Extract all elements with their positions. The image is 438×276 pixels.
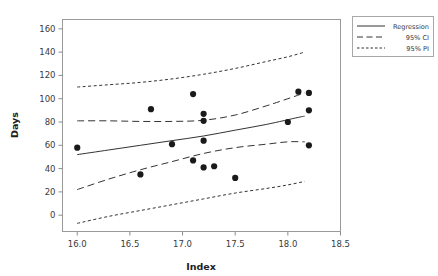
data-point [190, 91, 196, 97]
x-tick-label: 17.5 [226, 239, 245, 249]
y-tick-label: 20 [45, 187, 56, 197]
data-point [137, 171, 143, 177]
data-point [201, 118, 207, 124]
chart-legend[interactable]: Regression95% CI95% PI [353, 17, 434, 57]
y-tick-label: 120 [39, 70, 55, 80]
y-tick-label: 40 [45, 164, 56, 174]
y-axis-title: Days [9, 112, 20, 138]
y-tick-label: 100 [39, 94, 55, 104]
x-tick-label: 16.0 [68, 239, 87, 249]
y-tick-label: 0 [50, 210, 55, 220]
x-tick-label: 18.0 [278, 239, 297, 249]
y-tick-label: 160 [39, 24, 55, 34]
y-tick-label: 80 [45, 117, 56, 127]
data-point [169, 141, 175, 147]
data-point [190, 157, 196, 163]
data-point [306, 90, 312, 96]
legend-label[interactable]: 95% PI [406, 45, 429, 53]
data-point [201, 164, 207, 170]
x-tick-label: 18.5 [331, 239, 350, 249]
data-point [74, 145, 80, 151]
legend-label[interactable]: Regression [393, 23, 429, 31]
data-point [201, 138, 207, 144]
data-point [148, 106, 154, 112]
data-point [232, 175, 238, 181]
data-point [295, 89, 301, 95]
data-point [306, 142, 312, 148]
x-tick-label: 16.5 [120, 239, 139, 249]
chart-container: 020406080100120140160 16.016.517.017.518… [0, 0, 438, 276]
regression-scatter-chart: 020406080100120140160 16.016.517.017.518… [0, 0, 438, 276]
data-point [306, 107, 312, 113]
data-point [201, 111, 207, 117]
data-point [211, 163, 217, 169]
y-tick-label: 60 [45, 140, 56, 150]
y-tick-label: 140 [39, 47, 55, 57]
x-axis-title: Index [186, 261, 216, 272]
legend-label[interactable]: 95% CI [406, 34, 429, 42]
x-tick-label: 17.0 [173, 239, 192, 249]
data-point [285, 119, 291, 125]
